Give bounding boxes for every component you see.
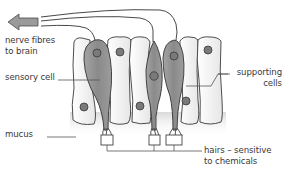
nucleus [170,52,178,60]
label-hairs-line1: hairs – sensitive [204,145,271,156]
nucleus [182,97,190,105]
nucleus [80,103,88,111]
leader-hairs [107,145,202,151]
label-supporting-cells-line2: cells [230,78,282,89]
label-hairs: hairs – sensitive to chemicals [204,145,271,167]
hair-box [166,135,182,145]
hair-box [101,135,113,145]
nerve-fibre [41,10,177,40]
nerve-fibres [41,10,177,42]
nucleus [93,49,101,57]
label-supporting-cells-line1: supporting [230,67,282,78]
label-mucus: mucus [5,129,33,140]
nucleus [150,72,158,80]
nucleus [204,46,212,54]
label-nerve-fibres-line2: to brain [5,46,55,57]
hair-box [149,135,160,145]
label-nerve-fibres: nerve fibres to brain [5,35,55,57]
label-nerve-fibres-line1: nerve fibres [5,35,55,46]
label-hairs-line2: to chemicals [204,156,271,167]
label-sensory-cell: sensory cell [5,72,55,83]
label-supporting-cells: supporting cells [230,67,282,89]
nucleus [136,102,144,110]
nucleus [116,48,124,56]
nerve-fibre-arrow [8,14,38,30]
